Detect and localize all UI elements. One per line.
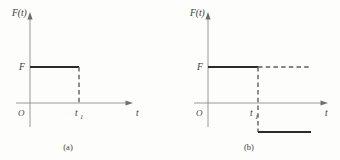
- figure-svg: F(t) F O t 1 t (a): [0, 0, 340, 160]
- panel-a-x-axis-label: t: [136, 108, 139, 118]
- panel-a-x-tick-label-subscript: 1: [80, 113, 83, 120]
- panel-b-x-tick-label-subscript: 1: [255, 113, 258, 120]
- panel-b-x-tick-label-t: t: [250, 108, 253, 118]
- panel-a-y-axis-arrow: [27, 12, 32, 20]
- panel-a-y-axis-label: F(t): [11, 8, 27, 19]
- panel-a-x-tick-label-t1: t 1: [75, 108, 83, 120]
- panel-b-y-axis-arrow: [205, 12, 210, 20]
- panel-b-origin-label: O: [196, 108, 203, 118]
- panel-b: F(t) F O t 1 t (b): [189, 8, 328, 152]
- figure-container: F(t) F O t 1 t (a): [0, 0, 340, 160]
- panel-b-y-axis-label: F(t): [189, 8, 205, 19]
- panel-a-x-tick-label-t: t: [75, 108, 78, 118]
- panel-a-origin-label: O: [18, 108, 25, 118]
- panel-a: F(t) F O t 1 t (a): [11, 8, 139, 152]
- panel-b-x-axis-arrow: [321, 100, 329, 105]
- panel-b-x-axis-label: t: [325, 108, 328, 118]
- panel-b-y-tick-label-F: F: [196, 62, 203, 72]
- panel-a-caption: (a): [63, 142, 73, 152]
- panel-a-x-axis-arrow: [126, 100, 134, 105]
- panel-b-x-tick-label-t1: t 1: [250, 108, 258, 120]
- panel-b-caption: (b): [244, 142, 254, 152]
- panel-a-y-tick-label-F: F: [18, 62, 25, 72]
